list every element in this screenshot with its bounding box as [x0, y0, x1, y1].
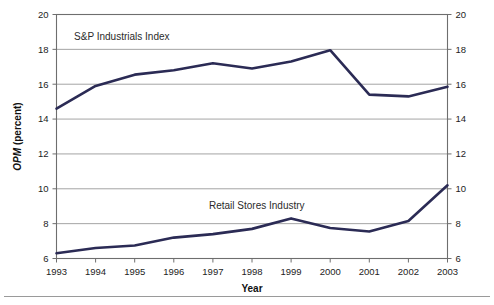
y-tick-label-left-18: 18	[38, 44, 49, 55]
x-tick-label-2003: 2003	[437, 266, 458, 277]
y-tick-label-left-12: 12	[38, 148, 49, 159]
y-tick-label-left-10: 10	[38, 183, 49, 194]
y-tick-label-right-6: 6	[456, 253, 461, 264]
y-tick-label-right-14: 14	[456, 113, 467, 124]
series-line-retail-stores-industry	[57, 185, 448, 253]
y-tick-label-right-10: 10	[456, 183, 467, 194]
y-axis-title-italic-part: OPM	[12, 147, 23, 170]
y-tick-label-left-20: 20	[38, 9, 49, 20]
y-axis-title: OPM (percent)	[12, 102, 23, 170]
x-tick-label-1996: 1996	[163, 266, 184, 277]
y-tick-label-left-14: 14	[38, 113, 49, 124]
y-tick-label-left-8: 8	[43, 218, 48, 229]
y-tick-label-right-20: 20	[456, 9, 467, 20]
footer-divider	[4, 296, 490, 297]
x-tick-label-1994: 1994	[85, 266, 106, 277]
x-tick-label-1999: 1999	[281, 266, 302, 277]
series-label-sp-industrials-index: S&P Industrials Index	[74, 31, 169, 42]
x-tick-label-2001: 2001	[359, 266, 380, 277]
y-tick-label-left-16: 16	[38, 79, 49, 90]
x-tick-label-1993: 1993	[46, 266, 67, 277]
y-tick-label-right-12: 12	[456, 148, 467, 159]
x-tick-label-2000: 2000	[320, 266, 341, 277]
line-chart-plot: 6810121416182068101214161820199319941995…	[0, 0, 494, 305]
y-tick-label-right-16: 16	[456, 79, 467, 90]
y-tick-label-left-6: 6	[43, 253, 48, 264]
chart-figure: 6810121416182068101214161820199319941995…	[0, 0, 494, 305]
plot-frame	[57, 15, 448, 259]
y-tick-label-right-8: 8	[456, 218, 461, 229]
x-tick-label-2002: 2002	[398, 266, 419, 277]
series-line-sp-industrials-index	[57, 50, 448, 108]
x-tick-label-1997: 1997	[202, 266, 223, 277]
x-tick-label-1998: 1998	[241, 266, 262, 277]
y-axis-title-normal-part: (percent)	[12, 102, 23, 148]
x-axis-title: Year	[241, 283, 262, 294]
series-label-retail-stores-industry: Retail Stores Industry	[209, 200, 305, 211]
y-tick-label-right-18: 18	[456, 44, 467, 55]
x-tick-label-1995: 1995	[124, 266, 145, 277]
